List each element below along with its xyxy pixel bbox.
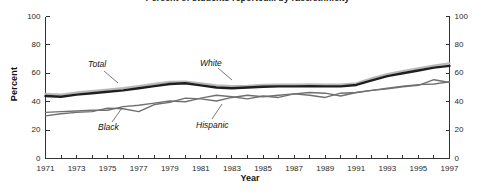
y-tick-label: 40 <box>19 98 41 106</box>
x-tick-label: 1973 <box>62 165 92 173</box>
y-tick-label: 60 <box>19 69 41 77</box>
series-label-hispanic: Hispanic <box>196 121 229 130</box>
x-tick-label: 1989 <box>310 165 340 173</box>
x-tick-label: 1993 <box>372 165 402 173</box>
y-tick-label-right: 40 <box>455 98 477 106</box>
y-tick-label-right: 0 <box>455 155 477 163</box>
y-tick-label: 100 <box>19 13 41 21</box>
x-tick-label: 1979 <box>155 165 185 173</box>
series-label-total: Total <box>88 60 106 69</box>
x-tick-label: 1971 <box>31 165 61 173</box>
y-tick-label: 20 <box>19 126 41 134</box>
y-tick-label-right: 60 <box>455 69 477 77</box>
series-label-white: White <box>200 59 222 68</box>
y-tick-label-right: 20 <box>455 126 477 134</box>
x-tick-label: 1987 <box>279 165 309 173</box>
y-tick-label-right: 100 <box>455 13 477 21</box>
y-tick-label-right: 80 <box>455 41 477 49</box>
x-tick-label: 1983 <box>217 165 247 173</box>
x-tick-label: 1995 <box>403 165 433 173</box>
x-tick-label: 1981 <box>186 165 216 173</box>
x-tick-label: 1997 <box>435 165 465 173</box>
y-tick-label: 80 <box>19 41 41 49</box>
x-tick-label: 1975 <box>93 165 123 173</box>
leader-line-white <box>218 68 232 80</box>
series-label-black: Black <box>98 123 119 132</box>
y-tick-label: 0 <box>19 155 41 163</box>
leader-line-total <box>104 71 118 83</box>
leader-line-hispanic <box>212 104 222 119</box>
leader-line-black <box>112 108 122 122</box>
x-tick-label: 1985 <box>248 165 278 173</box>
x-tick-label: 1977 <box>124 165 154 173</box>
series-line-total <box>46 66 450 97</box>
x-tick-label: 1991 <box>341 165 371 173</box>
chart-container: Percent of students reported... by race/… <box>0 0 495 192</box>
